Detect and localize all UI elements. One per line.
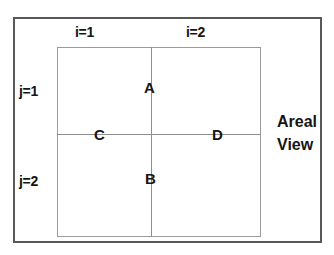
grid-divider-horizontal bbox=[57, 134, 261, 135]
column-label-i2: i=2 bbox=[186, 25, 205, 39]
row-label-j1: j=1 bbox=[19, 84, 38, 98]
diagram-canvas: i=1 i=2 j=1 j=2 A B C D Areal View bbox=[0, 0, 334, 255]
point-label-c: C bbox=[94, 127, 105, 142]
point-label-d: D bbox=[212, 127, 223, 142]
row-label-j2: j=2 bbox=[19, 174, 38, 188]
grid-divider-vertical bbox=[151, 47, 152, 237]
point-label-a: A bbox=[144, 80, 155, 95]
column-label-i1: i=1 bbox=[75, 25, 94, 39]
view-caption-line-2: View bbox=[277, 133, 329, 156]
view-caption: Areal View bbox=[277, 110, 329, 156]
inner-grid-rectangle bbox=[57, 47, 261, 237]
point-label-b: B bbox=[145, 171, 156, 186]
view-caption-line-1: Areal bbox=[277, 110, 329, 133]
